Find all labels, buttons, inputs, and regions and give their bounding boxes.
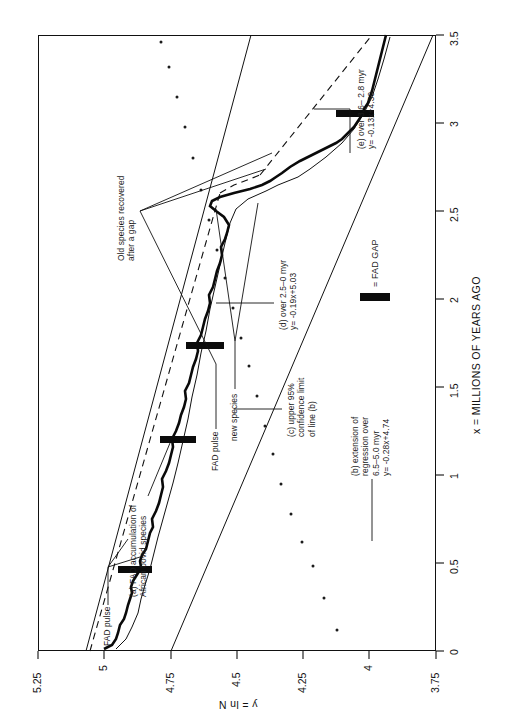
dotted-series bbox=[159, 40, 338, 631]
annotation-b: (b) extension of regression over 6.5–5.0… bbox=[350, 416, 391, 475]
x-tick-3: 3 bbox=[448, 121, 460, 127]
y-tick-4-25: 4.25 bbox=[296, 672, 308, 692]
y-tick-4-5: 4.5 bbox=[230, 672, 242, 687]
annotation-d: (d) over 2.5–0 myr y= -0.19x+5.03 bbox=[278, 259, 299, 329]
x-tick-0: 0 bbox=[448, 649, 460, 655]
chart-vector-layer bbox=[20, 9, 490, 709]
fad-gap-bars bbox=[118, 110, 374, 573]
y-tick-4: 4 bbox=[362, 665, 374, 671]
leader-fad-pulse-top-2 bbox=[140, 211, 216, 364]
annotation-old-species: Old species recovered after a gap bbox=[116, 175, 137, 260]
y-tick-5-25: 5.25 bbox=[31, 672, 43, 692]
x-tick-1-5: 1.5 bbox=[448, 383, 460, 398]
annotation-e: (e) over 3.6– 2.8 myr y= -0.13x+4.39 bbox=[356, 69, 377, 149]
y-axis-title: y = ln N bbox=[218, 699, 257, 711]
legend-fad-gap-swatch bbox=[360, 293, 390, 301]
x-tick-0-5: 0.5 bbox=[448, 559, 460, 574]
x-tick-2-5: 2.5 bbox=[448, 207, 460, 222]
annotation-c: (c) upper 95% confidence limit of line (… bbox=[286, 377, 317, 436]
annotation-a: (a) FAD accumulation of African bovid sp… bbox=[128, 504, 149, 596]
line-c-confidence bbox=[86, 35, 251, 651]
annotation-fad-pulse-left: FAD pulse bbox=[102, 606, 112, 646]
y-tick-5: 5 bbox=[97, 665, 109, 671]
figure-canvas: 0 0.5 1 1.5 2 2.5 3 3.5 3.75 4 4.25 4.5 … bbox=[20, 9, 490, 709]
x-tick-3-5: 3.5 bbox=[448, 31, 460, 46]
line-de-connector bbox=[220, 175, 260, 193]
annotation-new-species: new species bbox=[229, 393, 239, 440]
leader-new-species-3 bbox=[235, 203, 258, 341]
y-tick-marks bbox=[38, 651, 436, 659]
x-tick-2: 2 bbox=[448, 297, 460, 303]
y-tick-4-75: 4.75 bbox=[164, 672, 176, 692]
leader-old-species-2 bbox=[140, 153, 272, 211]
y-tick-3-75: 3.75 bbox=[429, 672, 441, 692]
x-tick-1: 1 bbox=[448, 473, 460, 479]
x-tick-marks bbox=[436, 35, 444, 651]
legend-fad-gap-label: = FAD GAP bbox=[370, 239, 381, 287]
annotation-fad-pulse-top: FAD pulse bbox=[210, 431, 220, 471]
x-axis-title: x = MILLIONS OF YEARS AGO bbox=[470, 276, 482, 434]
curve-inner-envelope bbox=[116, 37, 390, 649]
